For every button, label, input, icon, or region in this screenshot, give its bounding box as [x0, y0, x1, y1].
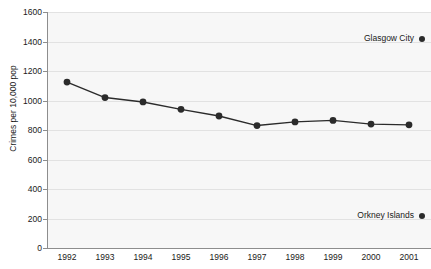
legend-marker-circle-icon [419, 36, 425, 42]
data-point-1993 [102, 94, 109, 101]
data-point-1992 [64, 79, 71, 86]
legend-item-glasgow-city[interactable]: Glasgow City [364, 33, 425, 44]
legend-label-glasgow-city: Glasgow City [364, 33, 414, 44]
chart-container: 1600 1400 1200 1000 800 600 400 200 0 Cr… [0, 0, 431, 269]
data-point-1998 [292, 118, 299, 125]
data-point-1995 [178, 106, 185, 113]
legend-marker-circle-icon [419, 213, 425, 219]
data-point-1997 [254, 122, 261, 129]
data-point-2000 [368, 121, 375, 128]
legend-label-orkney-islands: Orkney Islands [357, 210, 414, 221]
data-point-1996 [216, 113, 223, 120]
legend-item-orkney-islands[interactable]: Orkney Islands [357, 210, 425, 221]
data-point-2001 [406, 121, 413, 128]
data-point-1994 [140, 99, 147, 106]
data-point-1999 [330, 117, 337, 124]
series-line-glasgow-city [67, 82, 409, 126]
